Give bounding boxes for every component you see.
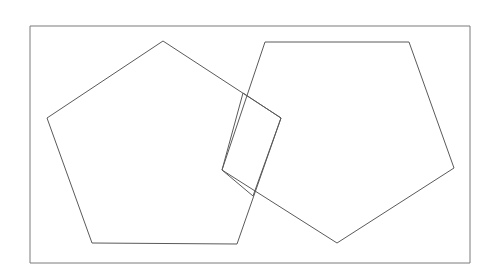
diagram-background: [0, 0, 498, 277]
figure-canvas: [0, 0, 498, 277]
shapes-diagram: [0, 0, 498, 277]
